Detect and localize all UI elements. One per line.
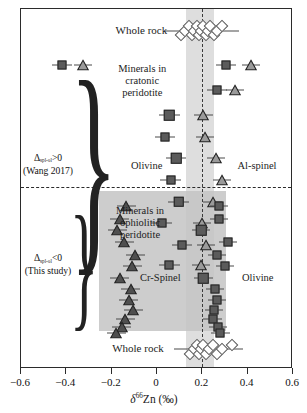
data-point-olivine-square xyxy=(165,260,174,269)
x-axis-tick-label: −0.4 xyxy=(55,376,75,388)
data-point-olivine-square xyxy=(213,250,222,259)
inequality: <0 xyxy=(52,252,62,263)
x-axis-title: δ66Zn (‰) xyxy=(130,392,177,405)
data-point-olivine-square xyxy=(57,60,66,69)
data-point-cr-spinel-triangle xyxy=(123,294,135,305)
data-point-olivine-square xyxy=(224,238,233,247)
x-axis-tick xyxy=(156,368,157,374)
x-axis-tick xyxy=(65,368,66,374)
data-point-al-spinel-triangle xyxy=(216,175,228,186)
group-label-lower-line2: (This study) xyxy=(25,265,72,278)
annotation-olivine-upper: Olivine xyxy=(131,160,163,172)
data-point-cr-spinel-triangle xyxy=(129,249,141,260)
data-point-olivine-square xyxy=(221,262,230,271)
data-point-al-spinel-triangle xyxy=(229,85,241,96)
brace-lower: } xyxy=(70,197,98,334)
data-point-cr-spinel-triangle xyxy=(110,328,122,339)
data-point-al-spinel-triangle xyxy=(210,153,222,164)
x-axis-tick xyxy=(292,368,293,374)
element-symbol: Zn xyxy=(143,393,156,405)
data-point-olivine-square xyxy=(173,196,184,207)
annotation-al-spinel: Al-spinel xyxy=(237,160,276,172)
subscript: spl-ol xyxy=(40,157,52,163)
data-point-olivine-square xyxy=(196,225,207,236)
data-point-al-spinel-triangle xyxy=(197,110,209,121)
x-axis-tick-label: 0 xyxy=(153,376,159,388)
data-point-olivine-square xyxy=(215,202,224,211)
x-axis-tick-label: 0.4 xyxy=(240,376,254,388)
annotation-cr-spinel: Cr-Spinel xyxy=(140,272,181,284)
mass-number: 66 xyxy=(136,392,143,400)
data-point-olivine-square xyxy=(222,60,231,69)
group-label-upper-line2: (Wang 2017) xyxy=(23,165,73,178)
x-axis-tick-label: −0.6 xyxy=(10,376,30,388)
data-point-olivine-square xyxy=(210,285,219,294)
annotation-olivine-lower: Olivine xyxy=(242,272,274,284)
annotation-whole-rock-bottom: Whole rock xyxy=(112,342,164,354)
data-point-olivine-square xyxy=(215,214,224,223)
annotation-whole-rock-top: Whole rock xyxy=(116,24,168,36)
unit: (‰) xyxy=(156,393,178,405)
panel-divider xyxy=(21,187,291,188)
data-point-olivine-square xyxy=(216,329,225,338)
x-axis-tick-label: 0.2 xyxy=(194,376,208,388)
x-axis-tick xyxy=(20,368,21,374)
data-point-al-spinel-triangle xyxy=(245,59,257,70)
annotation-line: Minerals in xyxy=(116,206,164,217)
data-point-olivine-square xyxy=(198,273,209,284)
annotation-line: peridotite xyxy=(122,87,162,98)
x-axis-tick xyxy=(111,368,112,374)
data-point-olivine-square xyxy=(171,153,182,164)
x-axis-tick xyxy=(201,368,202,374)
data-point-cr-spinel-triangle xyxy=(125,284,137,295)
figure-zn-isotope-scatter: Whole rock Minerals in cratonic peridoti… xyxy=(0,0,307,413)
inequality: >0 xyxy=(52,152,62,163)
x-axis-tick xyxy=(247,368,248,374)
data-point-olivine-square xyxy=(177,240,186,249)
data-point-olivine-square xyxy=(164,110,175,121)
annotation-line: Minerals in xyxy=(118,63,166,74)
data-point-olivine-square xyxy=(213,86,222,95)
group-label-lower-line1: Δspl-ol<0 xyxy=(25,252,72,265)
group-label-lower: Δspl-ol<0 (This study) xyxy=(25,252,72,278)
annotation-line: peridotite xyxy=(120,229,160,240)
data-point-cr-spinel-triangle xyxy=(126,261,138,272)
data-point-al-spinel-triangle xyxy=(200,239,212,250)
annotation-line: ophiolitic xyxy=(120,217,160,228)
group-label-upper: Δspl-ol>0 (Wang 2017) xyxy=(23,152,73,178)
data-point-olivine-square xyxy=(160,132,169,141)
data-point-olivine-square xyxy=(166,176,175,185)
data-point-olivine-square xyxy=(213,295,222,304)
x-axis-tick-label: 0.6 xyxy=(285,376,299,388)
data-point-olivine-square xyxy=(209,306,218,315)
subscript: spl-ol xyxy=(40,258,52,264)
annotation-ophiolitic-peridotite: Minerals in ophiolitic peridotite xyxy=(116,206,164,241)
annotation-cratonic-peridotite: Minerals in cratonic peridotite xyxy=(118,63,166,98)
x-axis-tick-label: −0.2 xyxy=(101,376,121,388)
data-point-al-spinel-triangle xyxy=(195,259,207,270)
annotation-line: cratonic xyxy=(125,75,159,86)
data-point-al-spinel-triangle xyxy=(199,131,211,142)
group-label-upper-line1: Δspl-ol>0 xyxy=(23,152,73,165)
plot-frame: Whole rock Minerals in cratonic peridoti… xyxy=(20,8,292,368)
